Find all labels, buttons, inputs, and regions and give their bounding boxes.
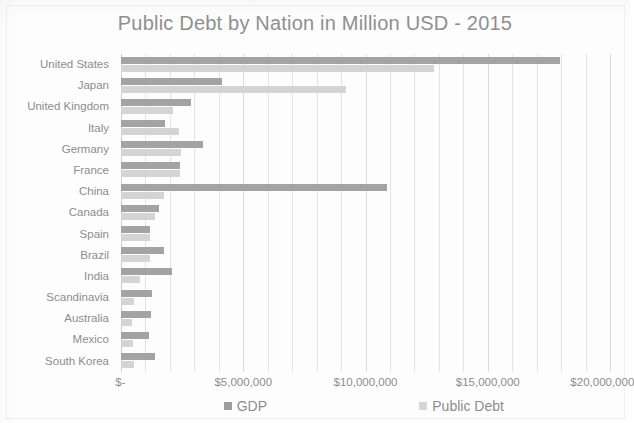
bar-gdp[interactable] (121, 120, 165, 127)
gridline-major (610, 54, 611, 372)
chart-legend: GDPPublic Debt (121, 398, 610, 420)
bar-public-debt[interactable] (121, 361, 134, 368)
category-label: Spain (0, 224, 115, 245)
bar-gdp[interactable] (121, 78, 222, 85)
bar-group (121, 287, 610, 308)
bar-public-debt[interactable] (121, 65, 434, 72)
value-axis-label: $20,000,000 (570, 376, 634, 388)
category-label: France (0, 160, 115, 181)
bar-gdp[interactable] (121, 290, 152, 297)
bar-group (121, 139, 610, 160)
legend-swatch-icon (224, 402, 232, 410)
bar-group (121, 96, 610, 117)
bar-gdp[interactable] (121, 268, 172, 275)
bar-public-debt[interactable] (121, 107, 173, 114)
category-label: United Kingdom (0, 96, 115, 117)
category-label: India (0, 266, 115, 287)
value-axis-label: $10,000,000 (334, 376, 398, 388)
value-axis: $-$5,000,000$10,000,000$15,000,000$20,00… (121, 376, 610, 396)
bar-group (121, 160, 610, 181)
bar-gdp[interactable] (121, 247, 164, 254)
bar-group (121, 181, 610, 202)
category-label: Japan (0, 75, 115, 96)
value-axis-label: $5,000,000 (214, 376, 272, 388)
bar-group (121, 266, 610, 287)
bar-public-debt[interactable] (121, 170, 180, 177)
category-label: Italy (0, 118, 115, 139)
legend-item-public-debt[interactable]: Public Debt (419, 398, 504, 414)
bar-public-debt[interactable] (121, 86, 346, 93)
bar-gdp[interactable] (121, 162, 180, 169)
category-label: United States (0, 54, 115, 75)
category-label: Scandinavia (0, 287, 115, 308)
category-label: Germany (0, 139, 115, 160)
bar-group (121, 224, 610, 245)
category-label: China (0, 181, 115, 202)
value-axis-label: $15,000,000 (456, 376, 520, 388)
bar-series-container (121, 54, 610, 372)
legend-label: Public Debt (432, 398, 504, 414)
bar-group (121, 308, 610, 329)
bar-gdp[interactable] (121, 205, 159, 212)
plot-area (121, 54, 610, 372)
category-label: Australia (0, 308, 115, 329)
bar-public-debt[interactable] (121, 192, 164, 199)
bar-gdp[interactable] (121, 332, 149, 339)
bar-public-debt[interactable] (121, 149, 181, 156)
bar-group (121, 75, 610, 96)
bar-gdp[interactable] (121, 57, 560, 64)
bar-public-debt[interactable] (121, 319, 132, 326)
bar-gdp[interactable] (121, 99, 191, 106)
bar-group (121, 54, 610, 75)
legend-item-gdp[interactable]: GDP (224, 398, 267, 414)
bar-group (121, 351, 610, 372)
bar-public-debt[interactable] (121, 128, 179, 135)
bar-public-debt[interactable] (121, 213, 155, 220)
legend-label: GDP (237, 398, 267, 414)
bar-public-debt[interactable] (121, 298, 134, 305)
bar-group (121, 118, 610, 139)
bar-gdp[interactable] (121, 353, 155, 360)
bar-group (121, 245, 610, 266)
category-label: South Korea (0, 351, 115, 372)
bar-group (121, 202, 610, 223)
category-label: Canada (0, 202, 115, 223)
bar-gdp[interactable] (121, 311, 151, 318)
bar-gdp[interactable] (121, 226, 150, 233)
bar-gdp[interactable] (121, 141, 203, 148)
category-axis: United StatesJapanUnited KingdomItalyGer… (0, 54, 115, 372)
legend-swatch-icon (419, 402, 427, 410)
category-label: Mexico (0, 329, 115, 350)
bar-public-debt[interactable] (121, 340, 133, 347)
bar-group (121, 329, 610, 350)
bar-gdp[interactable] (121, 184, 387, 191)
chart-title: Public Debt by Nation in Million USD - 2… (0, 12, 630, 35)
category-label: Brazil (0, 245, 115, 266)
bar-public-debt[interactable] (121, 255, 150, 262)
value-axis-label: $- (115, 376, 125, 388)
bar-public-debt[interactable] (121, 234, 150, 241)
bar-public-debt[interactable] (121, 276, 140, 283)
